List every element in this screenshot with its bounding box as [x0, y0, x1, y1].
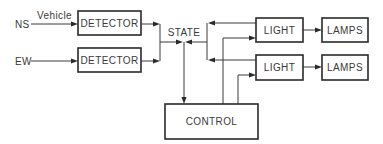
lamps-1-label: LAMPS — [327, 25, 363, 36]
ns-input-label: NS — [15, 19, 30, 30]
light-1-block: LIGHT — [256, 18, 303, 42]
arrow-head-icon — [315, 65, 322, 70]
detector-ns-block: DETECTOR — [78, 11, 141, 35]
detector-ew-label: DETECTOR — [80, 55, 138, 66]
arrow-head-icon — [249, 36, 256, 41]
arrow-head-icon — [208, 58, 215, 63]
arrow-head-icon — [153, 22, 160, 27]
arrow-head-icon — [208, 21, 215, 26]
arrow-head-icon — [185, 40, 192, 45]
arrow-head-icon — [182, 97, 187, 104]
lamps-1-block: LAMPS — [322, 18, 368, 42]
detector-ew-block: DETECTOR — [78, 48, 141, 72]
arrow-head-icon — [315, 28, 322, 33]
state-node-label: STATE — [168, 27, 201, 38]
arrow-head-icon — [71, 22, 78, 27]
light-2-label: LIGHT — [264, 62, 295, 73]
arrow-head-icon — [176, 40, 183, 45]
traffic-light-block-diagram: NS Vehicle EW DETECTOR DETECTOR STATE LI… — [0, 0, 383, 144]
arrow-head-icon — [153, 59, 160, 64]
control-label: CONTROL — [186, 116, 238, 127]
lamps-2-block: LAMPS — [322, 55, 368, 80]
control-to-light2-wire — [238, 75, 252, 104]
light-2-block: LIGHT — [256, 55, 303, 80]
vehicle-annotation: Vehicle — [37, 10, 72, 21]
arrow-head-icon — [71, 59, 78, 64]
ew-input-label: EW — [15, 56, 32, 67]
lamps-2-label: LAMPS — [327, 62, 363, 73]
arrow-head-icon — [249, 73, 256, 78]
light-1-label: LIGHT — [264, 25, 295, 36]
control-block: CONTROL — [165, 104, 258, 139]
detector-ns-label: DETECTOR — [80, 18, 138, 29]
